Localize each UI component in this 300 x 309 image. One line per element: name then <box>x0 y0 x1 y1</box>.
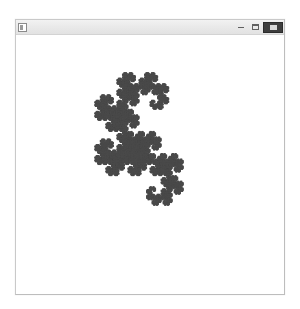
drawing-canvas-area <box>16 35 284 294</box>
maximize-icon <box>252 24 259 30</box>
dragon-curve-plot <box>16 35 284 294</box>
maximize-button[interactable] <box>249 22 261 33</box>
application-window <box>15 19 285 295</box>
close-button[interactable] <box>263 22 283 33</box>
close-icon <box>270 25 277 30</box>
application-icon <box>18 23 27 32</box>
window-controls <box>235 21 283 34</box>
minimize-icon <box>238 27 244 28</box>
minimize-button[interactable] <box>235 22 247 33</box>
title-bar[interactable] <box>16 20 284 35</box>
